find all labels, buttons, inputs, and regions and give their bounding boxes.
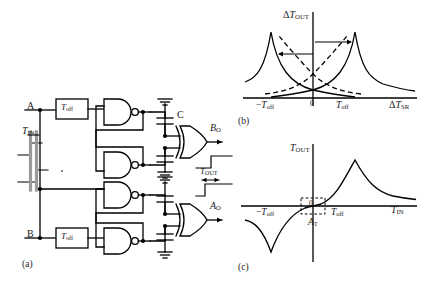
panel-a-circuit-svg: [0, 0, 250, 286]
panel-a-tag: (a): [22, 260, 33, 270]
figure-root: A B TIN Toff Toff C BO AO TOUT (a): [0, 0, 431, 286]
panel-c-ylabel: TOUT: [290, 143, 310, 154]
panel-b-dashed-negative: [279, 36, 361, 94]
junction-b: [38, 236, 42, 240]
panel-b-tag: (b): [238, 117, 249, 127]
output-bo-sub: O: [216, 126, 221, 133]
wire-nand3-to-cap: [150, 195, 165, 214]
panel-c-xlabel: TIN: [391, 205, 404, 216]
output-bo-label: BO: [210, 123, 221, 134]
tin-waveform: [18, 143, 48, 182]
panel-b-origin-tick: 0: [310, 100, 314, 108]
output-ao-sub: O: [216, 204, 221, 211]
tout-arrow: [202, 178, 219, 183]
tin-label-sub: IN: [28, 129, 35, 136]
panel-c-xtick-neg-sub: off: [267, 210, 274, 217]
junction-a: [38, 108, 42, 112]
panel-b-xtick-positive: Toff: [336, 101, 349, 111]
ground-symbol-bottom-2: [158, 252, 172, 258]
panel-c-xtick-positive: Toff: [331, 208, 344, 218]
panel-c-origin-tick: 0: [309, 200, 313, 208]
panel-b-ylabel-sub: OUT: [295, 13, 309, 20]
panel-c-xtick-pos-sub: off: [336, 210, 343, 217]
panel-c-gain-sub: T: [314, 220, 318, 227]
panel-b-xtick-neg-sub: off: [267, 103, 274, 110]
input-b-label: B: [27, 229, 34, 239]
panel-b-xtick-pos-sub: off: [341, 103, 348, 110]
panel-b-plot-svg: [235, 2, 431, 142]
delay-block-top-label: Toff: [61, 103, 73, 112]
panel-b-arrow-right: [315, 39, 352, 44]
panel-b-ylabel: ΔTOUT: [283, 10, 309, 21]
panel-b-xlabel: ΔTSR: [389, 100, 409, 111]
panel-c-xlabel-sub: IN: [397, 208, 404, 215]
output-ao-label: AO: [210, 201, 221, 212]
junction-a-nand3: [38, 187, 42, 191]
panel-b-xtick-negative: −Toff: [256, 101, 274, 111]
capacitor-group-bottom: [157, 177, 173, 258]
panel-c-tag: (c): [238, 263, 249, 273]
capacitor-label: C: [177, 110, 184, 120]
panel-c-xtick-negative: −Toff: [256, 208, 274, 218]
capacitor-group-top: [157, 99, 173, 178]
panel-c-gain-label: AT: [308, 218, 318, 228]
delay-top-sub: off: [66, 106, 73, 112]
panel-c-ylabel-sub: OUT: [296, 146, 310, 153]
delay-bottom-sub: off: [66, 235, 73, 241]
delay-block-bottom-label: Toff: [61, 232, 73, 241]
input-a-label: A: [27, 101, 34, 111]
tin-label: TIN: [22, 126, 35, 137]
tout-label-sub: OUT: [205, 170, 218, 176]
panel-b-dashed-positive: [265, 36, 347, 94]
tin-timing-band: [31, 132, 37, 190]
tout-label: TOUT: [200, 167, 218, 176]
panel-b-xlabel-sub: SR: [401, 103, 409, 110]
